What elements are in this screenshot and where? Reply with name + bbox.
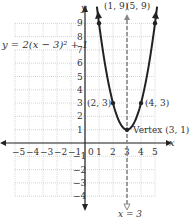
- x-tick-label: −2: [54, 147, 67, 157]
- x-tick-label: 5: [152, 147, 158, 157]
- y-tick-label: 5: [77, 72, 83, 82]
- symmetry-label: x = 3: [118, 209, 142, 219]
- y-tick-label: 6: [77, 58, 83, 68]
- symmetry-arrow-up-icon: [124, 14, 130, 20]
- equation-label: y = 2(x − 3)² + 1: [1, 39, 88, 50]
- y-tick-label: −2: [73, 165, 86, 175]
- x-tick-label: −4: [26, 147, 40, 157]
- x-tick-label: 0: [88, 147, 94, 157]
- x-tick-label: −5: [12, 147, 26, 157]
- point-label: Vertex (3, 1): [132, 125, 189, 135]
- data-point: [153, 21, 157, 25]
- y-tick-label: 2: [77, 111, 83, 121]
- y-tick-label: 3: [77, 98, 83, 108]
- curve-arrow-left-icon: [95, 11, 102, 19]
- x-tick-label: 2: [110, 147, 116, 157]
- data-point: [139, 101, 143, 105]
- x-axis-arrow-left-icon: [0, 140, 6, 146]
- point-label: (5, 9): [126, 1, 150, 11]
- y-tick-label: 4: [77, 85, 83, 95]
- data-point: [111, 101, 115, 105]
- y-tick-label: 1: [77, 125, 83, 135]
- parabola-chart: −5−4−3−2−1012345−4−3−2−1123456789 (1, 9)…: [0, 0, 192, 220]
- y-tick-label: −3: [73, 178, 87, 188]
- point-label: (2, 3): [87, 98, 111, 108]
- data-point: [97, 21, 101, 25]
- point-label: (1, 9): [104, 1, 128, 11]
- x-tick-label: 4: [138, 147, 144, 157]
- y-axis-label: y: [80, 2, 87, 13]
- x-axis-label: x: [169, 137, 175, 148]
- point-label: (4, 3): [145, 98, 169, 108]
- data-point: [125, 128, 129, 132]
- x-tick-label: −3: [40, 147, 54, 157]
- y-tick-label: 9: [77, 18, 83, 28]
- curve-arrow-right-icon: [152, 11, 159, 19]
- y-tick-label: −4: [73, 191, 87, 201]
- y-axis-arrow-down-icon: [82, 204, 88, 211]
- y-tick-label: −1: [73, 151, 86, 161]
- x-tick-label: 1: [96, 147, 102, 157]
